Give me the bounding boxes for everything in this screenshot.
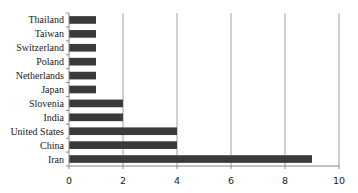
bar — [69, 44, 96, 52]
x-tick-label: 6 — [228, 175, 234, 186]
bar — [69, 127, 177, 135]
bar — [69, 141, 177, 149]
x-tick-label: 2 — [120, 175, 126, 186]
bar — [69, 30, 96, 38]
category-label: Netherlands — [16, 70, 64, 81]
bars — [69, 16, 312, 163]
bar — [69, 86, 96, 94]
x-tick-label: 0 — [66, 175, 72, 186]
bar — [69, 155, 312, 163]
x-tick-label: 8 — [282, 175, 288, 186]
category-label: Thailand — [28, 14, 64, 25]
bar — [69, 16, 96, 24]
category-label: United States — [10, 126, 64, 137]
bar — [69, 113, 123, 121]
category-label: Iran — [48, 154, 64, 165]
bar — [69, 100, 123, 108]
x-tick-labels: 0246810 — [66, 175, 345, 186]
bar-chart: ThailandTaiwanSwitzerlandPolandNetherlan… — [0, 0, 358, 193]
category-labels: ThailandTaiwanSwitzerlandPolandNetherlan… — [10, 14, 64, 164]
x-tick-label: 10 — [333, 175, 345, 186]
bar — [69, 72, 96, 80]
category-label: Slovenia — [29, 98, 65, 109]
category-label: Switzerland — [16, 42, 64, 53]
x-tick-label: 4 — [174, 175, 180, 186]
category-label: China — [40, 140, 64, 151]
category-label: India — [43, 112, 64, 123]
category-label: Poland — [36, 56, 64, 67]
category-label: Taiwan — [35, 28, 64, 39]
category-label: Japan — [41, 84, 64, 95]
bar — [69, 58, 96, 66]
